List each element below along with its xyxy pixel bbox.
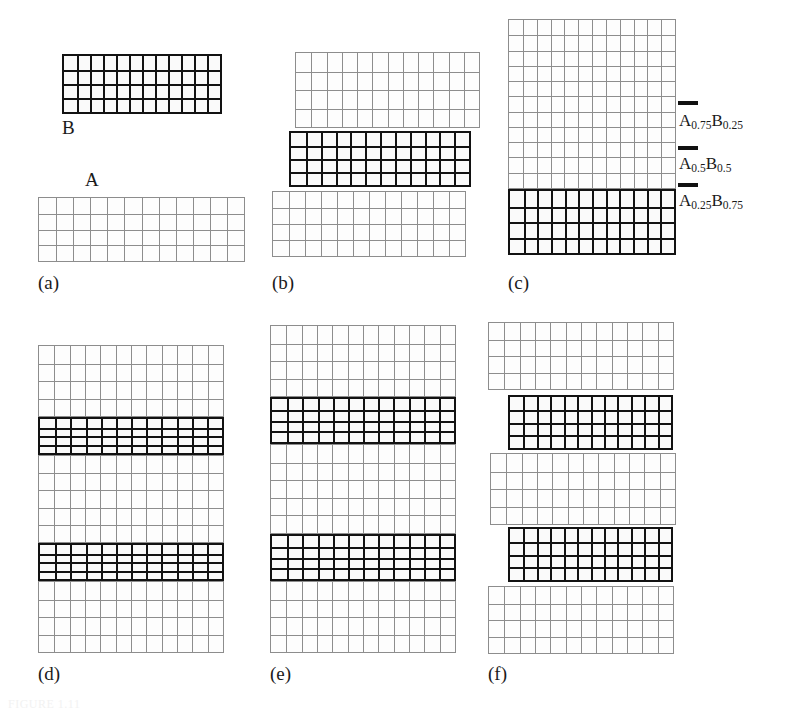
figure-canvas: B A (a) (b) A0.75B0.25 A0.5B0.5 A0.25B0.… (0, 0, 792, 711)
lattice-vline (522, 454, 523, 524)
lattice-hline (40, 562, 222, 564)
lattice-vline (596, 587, 597, 653)
lattice-hline (489, 356, 673, 357)
lattice-vline (131, 582, 132, 652)
lattice-hline (509, 66, 675, 67)
lattice-vline (598, 454, 599, 524)
lattice-hline (272, 558, 454, 560)
lattice-vline (116, 582, 117, 652)
lattice-hline (273, 240, 465, 241)
lattice-hline (491, 489, 675, 490)
lattice-vline (566, 323, 567, 389)
lattice-vline (146, 582, 147, 652)
lattice-vline (55, 419, 57, 453)
lattice-vline (302, 536, 304, 579)
lattice-hline (509, 112, 675, 113)
lattice-vline (321, 192, 322, 256)
lattice-vline (348, 582, 349, 652)
lattice-vline (629, 454, 630, 524)
lattice-vline (207, 419, 209, 453)
lattice-hline (489, 620, 673, 621)
lattice-hline (509, 96, 675, 97)
lattice-vline (439, 399, 441, 442)
lattice-vline (385, 192, 386, 256)
lattice-vline (424, 536, 426, 579)
lattice-vline (658, 323, 659, 389)
panel-label-d: (d) (38, 664, 60, 683)
lattice-hline (509, 81, 675, 82)
lattice-vline (550, 529, 552, 580)
lattice-vline (440, 445, 441, 533)
lattice-vline (634, 20, 635, 188)
lattice-vline (644, 454, 645, 524)
lattice-vline (317, 445, 318, 533)
lattice-hline (489, 340, 673, 341)
lattice-vline (70, 545, 72, 579)
lattice-vline (363, 536, 365, 579)
lattice-hline (509, 173, 675, 174)
lattice-hline (509, 35, 675, 36)
lattice-hline (271, 344, 455, 345)
lattice-vline (581, 587, 582, 653)
lattice-vline (318, 399, 320, 442)
lattice-vline (403, 53, 404, 127)
tick-a05b05 (678, 146, 698, 150)
lattice-vline (464, 53, 465, 127)
lattice-vline (661, 20, 662, 188)
lattice-vline (286, 445, 287, 533)
lattice-vline (660, 191, 662, 253)
lattice-vline (537, 191, 539, 253)
panel-f-light-2-block (490, 453, 676, 525)
lattice-vline (302, 582, 303, 652)
lattice-vline (380, 133, 382, 185)
lattice-vline (378, 582, 379, 652)
lattice-hline (40, 554, 222, 556)
lattice-hline (272, 547, 454, 549)
lattice-vline (378, 326, 379, 396)
lattice-vline (578, 20, 579, 188)
lattice-vline (177, 456, 178, 542)
panel-e-light-2-block (270, 444, 456, 534)
lattice-vline (333, 536, 335, 579)
lattice-vline (192, 545, 194, 579)
lattice-vline (627, 323, 628, 389)
lattice-hline (510, 222, 674, 224)
lattice-vline (409, 326, 410, 396)
panel-f-light-1-block (488, 322, 674, 390)
lattice-vline (162, 456, 163, 542)
lattice-vline (614, 454, 615, 524)
lattice-hline (271, 379, 455, 380)
lattice-vline (642, 587, 643, 653)
lattice-vline (393, 399, 395, 442)
lattice-hline (39, 617, 223, 618)
lattice-vline (617, 529, 619, 580)
panel-f-dark-2-block (508, 527, 673, 582)
lattice-vline (449, 53, 450, 127)
lattice-hline (510, 435, 671, 437)
lattice-vline (333, 399, 335, 442)
lattice-vline (633, 191, 635, 253)
panel-c-bottom-dark-block (508, 189, 676, 255)
lattice-vline (520, 323, 521, 389)
lattice-vline (433, 53, 434, 127)
lattice-hline (272, 431, 454, 433)
lattice-hline (296, 72, 479, 73)
lattice-vline (577, 529, 579, 580)
lattice-vline (393, 536, 395, 579)
lattice-vline (342, 53, 343, 127)
lattice-vline (424, 399, 426, 442)
lattice-vline (208, 582, 209, 652)
lattice-vline (311, 53, 312, 127)
panel-b-top-light-block (295, 52, 480, 128)
lattice-vline (409, 536, 411, 579)
lattice-vline (604, 529, 606, 580)
lattice-vline (146, 419, 148, 453)
lattice-vline (550, 323, 551, 389)
figure-caption-partial: FIGURE 1.11 (8, 697, 80, 711)
lattice-hline (509, 142, 675, 143)
lattice-vline (394, 582, 395, 652)
lattice-vline (207, 545, 209, 579)
lattice-vline (440, 326, 441, 396)
lattice-vline (161, 545, 163, 579)
lattice-hline (39, 490, 223, 491)
